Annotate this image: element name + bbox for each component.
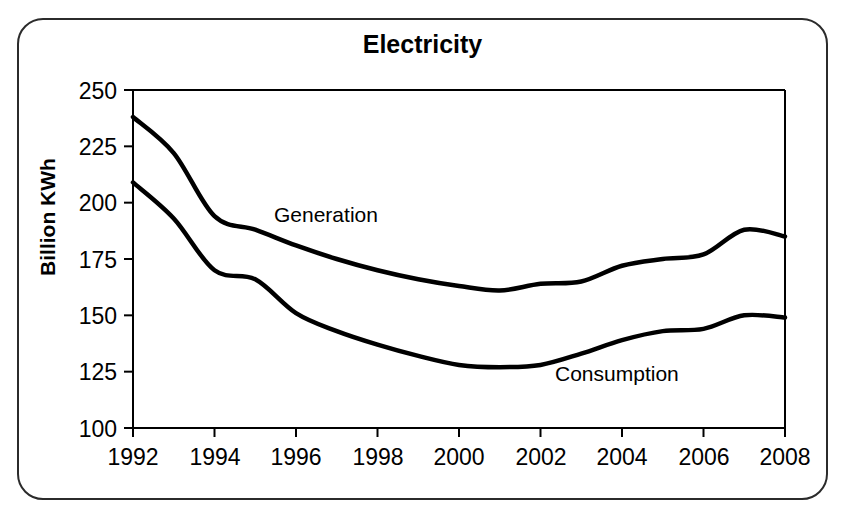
plot-area <box>0 0 845 520</box>
y-axis-ticks <box>124 90 133 428</box>
line-series-consumption <box>133 182 785 367</box>
x-axis-ticks <box>133 428 785 437</box>
line-series-generation <box>133 117 785 291</box>
chart-figure: Electricity Billion KWh 250 225 200 175 … <box>0 0 845 520</box>
